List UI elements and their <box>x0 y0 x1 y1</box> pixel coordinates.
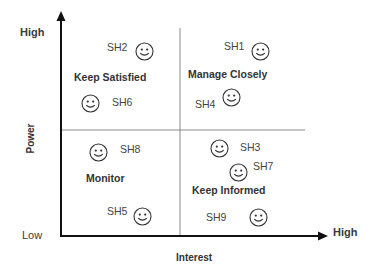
quadrant-label-keep-satisfied: Keep Satisfied <box>74 71 146 83</box>
stakeholder-label-sh1: SH1 <box>224 40 244 52</box>
stakeholder-label-sh3: SH3 <box>240 141 260 153</box>
smiley-face-icon-sh1 <box>251 42 270 61</box>
quadrant-label-keep-informed: Keep Informed <box>192 184 266 196</box>
stakeholder-label-sh4: SH4 <box>195 98 215 110</box>
smiley-face-icon-sh5 <box>133 207 152 226</box>
stakeholder-label-sh6: SH6 <box>112 96 132 108</box>
stakeholder-label-sh5: SH5 <box>107 205 127 217</box>
smiley-face-icon-sh2 <box>135 42 154 61</box>
quadrant-label-manage-closely: Manage Closely <box>188 68 267 80</box>
y-axis-low-label: Low <box>22 229 42 241</box>
smiley-face-icon-sh7 <box>229 163 248 182</box>
grid-lines <box>0 0 372 269</box>
smiley-face-icon-sh3 <box>210 139 229 158</box>
stakeholder-label-sh9: SH9 <box>206 211 226 223</box>
x-axis-high-label: High <box>333 226 357 238</box>
x-axis-arrow-icon <box>318 232 328 241</box>
smiley-face-icon-sh6 <box>81 94 100 113</box>
stakeholder-label-sh7: SH7 <box>253 160 273 172</box>
smiley-face-icon-sh8 <box>89 143 108 162</box>
quadrant-label-monitor: Monitor <box>86 172 125 184</box>
stakeholder-label-sh8: SH8 <box>120 143 140 155</box>
stakeholder-label-sh2: SH2 <box>107 41 127 53</box>
y-axis-high-label: High <box>20 26 44 38</box>
y-axis-title: Power <box>25 119 36 159</box>
smiley-face-icon-sh9 <box>249 208 268 227</box>
y-axis-arrow-icon <box>57 11 66 21</box>
smiley-face-icon-sh4 <box>222 88 241 107</box>
x-axis-title: Interest <box>176 252 212 263</box>
